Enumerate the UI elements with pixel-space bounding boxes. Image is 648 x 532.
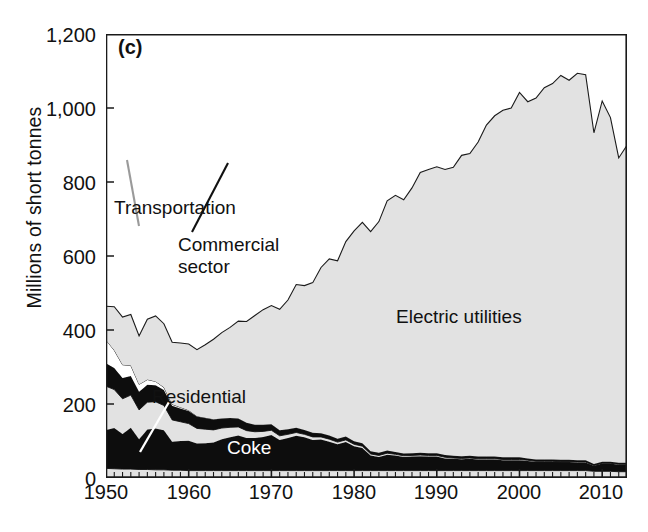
y-tick-1200: 1,200 bbox=[22, 25, 96, 45]
y-tick-800: 800 bbox=[22, 173, 96, 193]
x-tick-1950: 1950 bbox=[84, 482, 129, 502]
y-tick-600: 600 bbox=[22, 247, 96, 267]
annotation-commercial-line1: Commercial bbox=[178, 235, 279, 256]
y-tick-1000: 1,000 bbox=[22, 99, 96, 119]
x-tick-2010: 2010 bbox=[579, 482, 624, 502]
x-tick-2000: 2000 bbox=[497, 482, 542, 502]
x-tick-1970: 1970 bbox=[249, 482, 294, 502]
annotation-commercial-line2: sector bbox=[178, 257, 230, 278]
y-axis-tick-labels: 1,200 1,000 800 600 400 200 0 bbox=[18, 0, 96, 532]
annotation-electric-utilities: Electric utilities bbox=[396, 307, 522, 328]
x-tick-1980: 1980 bbox=[332, 482, 377, 502]
x-tick-1990: 1990 bbox=[414, 482, 459, 502]
annotation-residential: Residential bbox=[152, 387, 246, 408]
panel-label: (c) bbox=[118, 36, 142, 59]
y-tick-200: 200 bbox=[22, 395, 96, 415]
annotation-coke: Coke bbox=[227, 438, 271, 459]
annotation-transportation: Transportation bbox=[114, 198, 236, 219]
x-tick-1960: 1960 bbox=[167, 482, 212, 502]
y-tick-400: 400 bbox=[22, 321, 96, 341]
figure-panel-c: Millions of short tonnes 1,200 1,000 800… bbox=[0, 0, 648, 532]
x-axis-tick-labels: 1950 1960 1970 1980 1990 2000 2010 bbox=[0, 482, 648, 516]
